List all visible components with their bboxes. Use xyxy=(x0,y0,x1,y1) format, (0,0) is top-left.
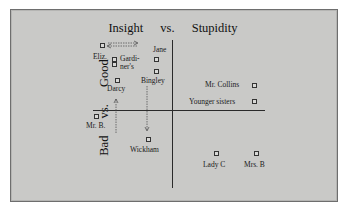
point-lady-c xyxy=(214,151,219,156)
label-mrs-b: Mrs. B xyxy=(244,161,265,169)
point-wickham xyxy=(146,137,151,142)
point-mr-collins xyxy=(252,83,257,88)
arrows-layer xyxy=(0,0,346,211)
wickham-down-arrow xyxy=(145,86,149,131)
label-lady-c: Lady C xyxy=(203,161,225,169)
label-mr-collins: Mr. Collins xyxy=(205,81,239,89)
point-darcy xyxy=(115,78,120,83)
label-jane: Jane xyxy=(153,46,166,54)
darcy-up-arrow xyxy=(114,99,118,134)
point-mr-b xyxy=(94,114,99,119)
label-eliz: Eliz. xyxy=(93,53,107,61)
label-darcy: Darcy xyxy=(107,85,125,93)
label-gardiners-line2: ner's xyxy=(120,63,134,71)
label-wickham: Wickham xyxy=(130,146,159,154)
eliz-arrow xyxy=(107,41,138,48)
point-gardiners-2 xyxy=(112,62,117,67)
label-mr-b: Mr. B. xyxy=(86,122,105,130)
point-jane xyxy=(154,57,159,62)
point-bingley xyxy=(154,69,159,74)
point-younger-sisters xyxy=(252,99,257,104)
label-bingley: Bingley xyxy=(141,77,165,85)
label-younger-sisters: Younger sisters xyxy=(189,98,235,106)
point-mrs-b xyxy=(254,151,259,156)
point-eliz xyxy=(100,43,105,48)
